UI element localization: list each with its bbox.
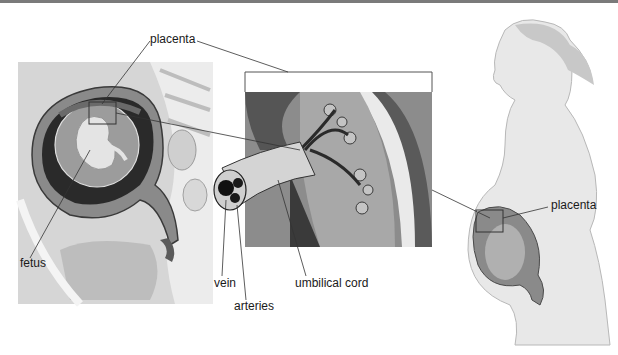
label-placenta-top: placenta xyxy=(150,32,195,46)
label-placenta-right: placenta xyxy=(551,198,596,212)
pregnant-woman-figure xyxy=(468,20,610,345)
anatomy-illustration xyxy=(0,0,618,355)
uterus-section-panel xyxy=(18,62,213,304)
label-vein: vein xyxy=(214,276,236,290)
label-fetus: fetus xyxy=(20,256,46,270)
label-umbilical-cord: umbilical cord xyxy=(295,276,368,290)
placenta-detail-panel xyxy=(214,72,432,247)
label-arteries: arteries xyxy=(234,299,274,313)
